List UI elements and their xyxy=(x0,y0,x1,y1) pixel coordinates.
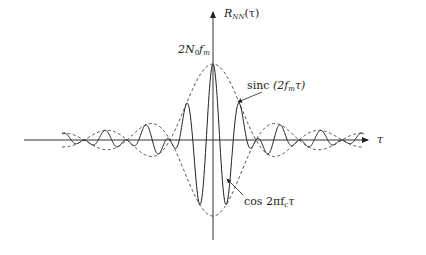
sinc-sub: m xyxy=(288,85,295,93)
y-label-sub: NN xyxy=(232,13,244,21)
sinc-arg-open: (2f xyxy=(273,79,288,92)
y-label-arg: (τ) xyxy=(245,7,260,20)
autocorrelation-diagram: RNN(τ) τ 2N0fm sinc (2fmτ) cos 2πfcτ xyxy=(0,0,426,255)
plot-area xyxy=(0,0,426,255)
y-axis-label: RNN(τ) xyxy=(224,8,259,21)
sinc-annotation-label: sinc (2fmτ) xyxy=(247,80,305,93)
tau-label: τ xyxy=(377,133,383,146)
peak-label-main: 2N xyxy=(178,43,195,56)
cos-tail: τ xyxy=(288,195,294,208)
peak-value-label: 2N0fm xyxy=(178,44,210,57)
sinc-func: sinc xyxy=(247,79,269,92)
peak-label-subm: m xyxy=(203,49,210,57)
cos-func: cos 2πf xyxy=(244,195,284,208)
sinc-arg-close: τ) xyxy=(295,79,305,92)
cos-annotation-label: cos 2πfcτ xyxy=(244,196,294,209)
x-axis-label: τ xyxy=(377,134,383,145)
sinc-annotation-arrow xyxy=(238,92,262,102)
